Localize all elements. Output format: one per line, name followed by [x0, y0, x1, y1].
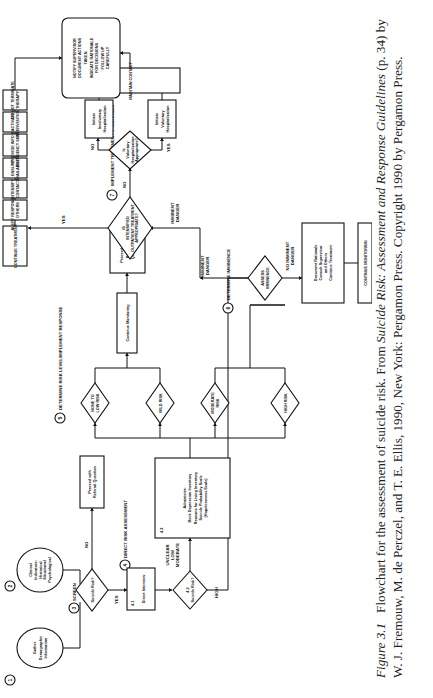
suicide-risk-flowchart: 1GatherDemographicInformation2ClinicalIn…: [0, 0, 372, 698]
assess-imminence-text: ASSESSIMMINENCE: [261, 267, 270, 289]
document-rationale-box: [302, 223, 344, 303]
arrowhead-icon: [169, 588, 172, 592]
proceed-referral-text-screen: Proceed withReferral Question: [88, 465, 97, 498]
no-imminent-label: NO IMMINENTDANGER: [285, 241, 295, 270]
risk-text-1: MILD RISK: [159, 393, 163, 413]
42-high-label: HIGH: [214, 587, 219, 598]
instruments-43-box: [155, 458, 230, 538]
figure-label: Figure 3.1: [373, 623, 388, 678]
screen-yes-label: YES: [114, 595, 119, 604]
risk-diamond-0: [81, 383, 109, 423]
suicide-risk-screen-text: Suicide Risk?: [91, 577, 95, 603]
caption-text-1: Flowchart for the assessment of suicide …: [373, 343, 388, 613]
ellipse2-to-screen-line: [63, 570, 80, 584]
vol-no-label: NO: [90, 143, 95, 150]
outpatient-yes-label: YES: [61, 215, 66, 224]
42-low-label: UNCLEARLOWMODERATE: [165, 543, 180, 567]
step-1-marker-number: 1: [7, 678, 13, 681]
assess-imminence-diamond: [248, 256, 282, 300]
outpatient-no-label: NO: [122, 181, 127, 188]
continue-monitoring-text: Continue Monitoring: [126, 304, 130, 342]
risk-text-3: HIGH RISK: [284, 393, 288, 413]
step-5-marker-number: 5: [57, 416, 63, 419]
mod-high-to-imminence: [250, 305, 285, 368]
strategy-text-2: INTENSIFYCONTACT: [11, 179, 19, 199]
vol-yes-label: YES: [166, 143, 171, 152]
step-3-marker-number: 3: [71, 606, 77, 609]
box-4-3-id: 4.3: [160, 528, 164, 533]
vol-yes-line: [151, 138, 162, 150]
step-2-marker-number: 2: [7, 584, 13, 587]
source-title: Suicide Risk: Assessment and Response Gu…: [373, 74, 388, 343]
42-high-line: [207, 278, 280, 590]
screen-no-label: NO: [84, 541, 89, 548]
step-4-marker-number: 4: [122, 563, 128, 566]
risk-text-0: NONE TOLOW RISK: [91, 393, 100, 412]
step-7-marker-number: 7: [109, 193, 115, 196]
rotated-page: 1GatherDemographicInformation2ClinicalIn…: [0, 0, 433, 698]
figure-caption: Figure 3.1 Flowchart for the assessment …: [372, 8, 406, 678]
imminent-label-7: IMMINENTDANGER: [170, 202, 180, 224]
vol-no-line: [98, 138, 109, 150]
continue-monitoring-final-text: CONTINUE MONITORING: [364, 240, 368, 286]
risk-level-label: DETERMINE RISK LEVEL/IMPLEMENT RESPONSE: [58, 306, 63, 410]
suicide-risk-42-diamond: [173, 571, 207, 609]
step-6-marker-number: 6: [225, 306, 231, 309]
determine-imminence-label: DETERMINE IMMINENCE: [226, 249, 231, 300]
box-4-1-id: 4.1: [131, 601, 135, 606]
proceed-referral-box-screen: [80, 456, 104, 508]
imminent-to-step7-line: [150, 228, 200, 278]
direct-interview-text: Direct Interview: [142, 575, 146, 603]
imminent-label-6: IMMINENTDANGER: [200, 255, 210, 277]
direct-risk-assessment-label: DIRECT RISK ASSESSMENT: [123, 500, 128, 558]
risk-diamond-2: [201, 383, 229, 423]
screen-label: SCREEN: [72, 583, 77, 601]
arrowhead-icon: [28, 226, 31, 230]
strategies-to-final: [15, 58, 62, 90]
